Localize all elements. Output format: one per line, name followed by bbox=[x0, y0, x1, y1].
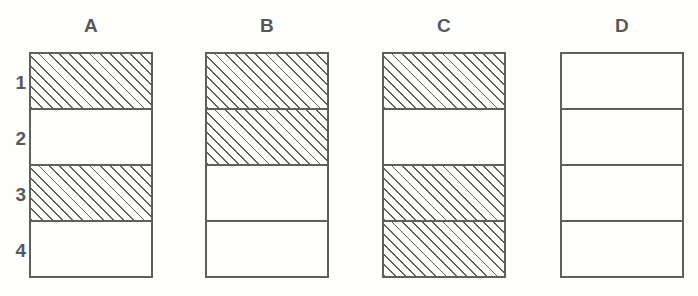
cell-c2[interactable] bbox=[384, 110, 504, 166]
column-header-b: B bbox=[205, 14, 329, 38]
column-header-d: D bbox=[560, 14, 684, 38]
column-box-d bbox=[560, 52, 684, 278]
cell-b2[interactable] bbox=[207, 110, 327, 166]
cell-c4[interactable] bbox=[384, 222, 504, 276]
cell-b1[interactable] bbox=[207, 54, 327, 110]
cell-a2[interactable] bbox=[31, 110, 151, 166]
column-box-a bbox=[29, 52, 153, 278]
column-header-a: A bbox=[29, 14, 153, 38]
cell-d1[interactable] bbox=[562, 54, 682, 110]
cell-a4[interactable] bbox=[31, 222, 151, 276]
cell-d2[interactable] bbox=[562, 110, 682, 166]
row-label-4: 4 bbox=[2, 241, 26, 261]
cell-d4[interactable] bbox=[562, 222, 682, 276]
row-label-2: 2 bbox=[2, 129, 26, 149]
cell-a1[interactable] bbox=[31, 54, 151, 110]
cell-c1[interactable] bbox=[384, 54, 504, 110]
diagram-canvas: A B C D 1 2 3 4 bbox=[0, 0, 698, 296]
cell-c3[interactable] bbox=[384, 166, 504, 222]
cell-b4[interactable] bbox=[207, 222, 327, 276]
column-box-b bbox=[205, 52, 329, 278]
cell-b3[interactable] bbox=[207, 166, 327, 222]
cell-a3[interactable] bbox=[31, 166, 151, 222]
column-header-c: C bbox=[382, 14, 506, 38]
row-label-1: 1 bbox=[2, 73, 26, 93]
column-box-c bbox=[382, 52, 506, 278]
row-label-3: 3 bbox=[2, 185, 26, 205]
cell-d3[interactable] bbox=[562, 166, 682, 222]
